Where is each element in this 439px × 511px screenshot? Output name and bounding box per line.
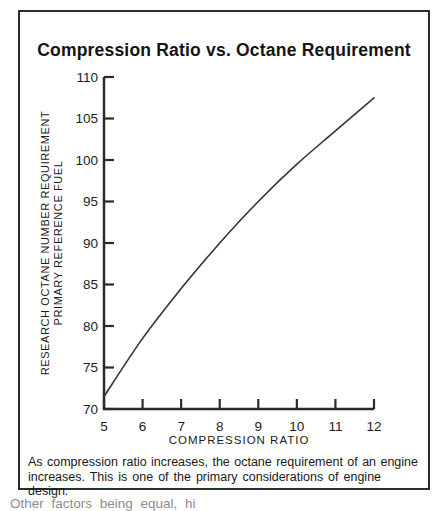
figure-caption: As compression ratio increases, the octa…	[28, 455, 418, 499]
x-tick-label: 6	[139, 419, 147, 434]
caption-line-2: increases. This is one of the primary co…	[28, 470, 418, 499]
x-tick-label: 11	[328, 419, 342, 434]
x-tick-label: 9	[255, 419, 263, 434]
y-tick-label: 80	[83, 319, 98, 334]
x-tick-label: 10	[289, 419, 304, 434]
y-axis-label-line2: PRIMARY REFERENCE FUEL	[52, 161, 64, 326]
y-tick-label: 85	[83, 277, 98, 292]
x-axis-label: COMPRESSION RATIO	[169, 434, 310, 446]
y-axis-label-line1: RESEARCH OCTANE NUMBER REQUIREMENT	[39, 111, 51, 376]
octane-requirement-curve	[104, 98, 374, 397]
chart-canvas: 70758085909510010511056789101112COMPRESS…	[0, 0, 439, 452]
cropped-body-text: Other factors being equal, hi	[10, 496, 430, 511]
x-tick-label: 7	[177, 419, 185, 434]
y-tick-label: 90	[83, 236, 98, 251]
y-tick-label: 95	[83, 194, 98, 209]
y-tick-label: 75	[83, 360, 98, 375]
y-tick-label: 70	[83, 402, 98, 417]
x-tick-label: 8	[216, 419, 224, 434]
axes	[104, 77, 374, 409]
x-tick-label: 5	[100, 419, 108, 434]
y-tick-label: 110	[76, 70, 98, 85]
x-tick-label: 12	[366, 419, 381, 434]
y-tick-label: 105	[75, 111, 98, 126]
caption-line-1: As compression ratio increases, the octa…	[28, 455, 418, 470]
y-tick-label: 100	[75, 153, 98, 168]
